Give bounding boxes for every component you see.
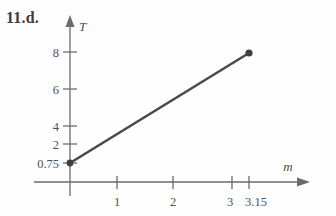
figure-panel: 11.d. 8 6 4 2 0.75 1 2 3 3.15	[0, 0, 336, 216]
x-axis-arrowhead	[297, 178, 310, 187]
x-tick-label-3.15: 3.15	[245, 195, 267, 209]
x-tick-label-3: 3	[227, 195, 233, 209]
data-point-start	[67, 160, 74, 167]
x-axis-label: m	[283, 159, 292, 174]
x-tick-label-2: 2	[170, 195, 176, 209]
graph-plot: 8 6 4 2 0.75 1 2 3 3.15 T m	[0, 0, 336, 216]
y-tick-label-6: 6	[53, 83, 59, 97]
y-tick-label-8: 8	[53, 46, 59, 60]
y-tick-label-0.75: 0.75	[37, 157, 59, 171]
y-axis-arrowhead	[66, 15, 75, 27]
data-point-end	[245, 49, 252, 56]
x-tick-label-1: 1	[114, 195, 120, 209]
y-axis-label: T	[79, 19, 87, 34]
data-line-segment	[70, 53, 249, 163]
y-tick-label-4: 4	[53, 120, 60, 134]
y-tick-label-2: 2	[53, 138, 59, 152]
